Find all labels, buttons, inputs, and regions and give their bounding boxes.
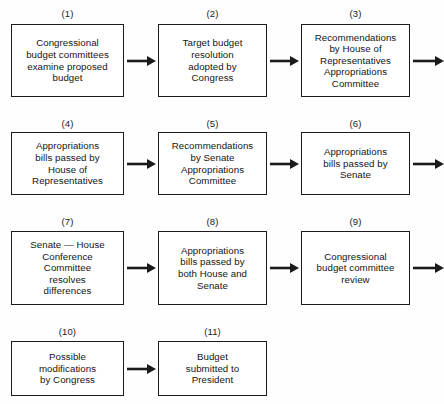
process-box-2: Target budget resolution adopted by Cong…: [158, 24, 267, 97]
process-box-10: Possible modifications by Congress: [11, 341, 124, 396]
node-label-8: (8): [158, 216, 267, 227]
process-box-text-2: Target budget resolution adopted by Cong…: [180, 37, 246, 83]
process-box-1: Congressional budget committees examine …: [11, 24, 124, 97]
node-label-1: (1): [11, 8, 124, 19]
process-box-text-10: Possible modifications by Congress: [36, 351, 99, 386]
process-box-5: Recommendations by Senate Appropriations…: [158, 132, 267, 195]
arrow-3-to-4: [413, 54, 444, 68]
flowchart-diagram: (1)Congressional budget committees exami…: [0, 0, 444, 404]
node-label-11: (11): [158, 326, 267, 337]
process-box-text-7: Senate — House Conference Committee reso…: [27, 239, 107, 297]
process-box-11: Budget submitted to President: [158, 341, 267, 396]
node-label-2: (2): [158, 8, 267, 19]
arrow-8-to-9: [270, 261, 299, 275]
process-box-text-4: Appropriations bills passed by House of …: [29, 140, 106, 186]
arrow-7-to-8: [127, 261, 156, 275]
arrow-2-to-3: [270, 54, 299, 68]
process-box-6: Appropriations bills passed by Senate: [301, 132, 410, 195]
node-label-4: (4): [11, 118, 124, 129]
process-box-text-5: Recommendations by Senate Appropriations…: [169, 140, 257, 186]
node-label-10: (10): [11, 326, 124, 337]
process-box-text-1: Congressional budget committees examine …: [23, 37, 112, 83]
arrow-1-to-2: [127, 54, 156, 68]
process-box-3: Recommendations by House of Representati…: [301, 24, 410, 97]
arrow-5-to-6: [270, 157, 299, 171]
arrow-9-to-10: [413, 261, 444, 275]
process-box-text-11: Budget submitted to President: [183, 351, 242, 386]
process-box-8: Appropriations bills passed by both Hous…: [158, 231, 267, 305]
node-label-7: (7): [11, 216, 124, 227]
arrow-6-to-7: [413, 157, 444, 171]
process-box-text-9: Congressional budget committee review: [314, 251, 398, 286]
process-box-text-6: Appropriations bills passed by Senate: [320, 146, 390, 181]
node-label-5: (5): [158, 118, 267, 129]
arrow-4-to-5: [127, 157, 156, 171]
process-box-text-3: Recommendations by House of Representati…: [312, 32, 400, 90]
node-label-9: (9): [301, 216, 410, 227]
process-box-4: Appropriations bills passed by House of …: [11, 132, 124, 195]
process-box-9: Congressional budget committee review: [301, 231, 410, 305]
node-label-3: (3): [301, 8, 410, 19]
arrow-10-to-11: [127, 362, 156, 376]
process-box-text-8: Appropriations bills passed by both Hous…: [175, 245, 250, 291]
process-box-7: Senate — House Conference Committee reso…: [11, 231, 124, 305]
node-label-6: (6): [301, 118, 410, 129]
